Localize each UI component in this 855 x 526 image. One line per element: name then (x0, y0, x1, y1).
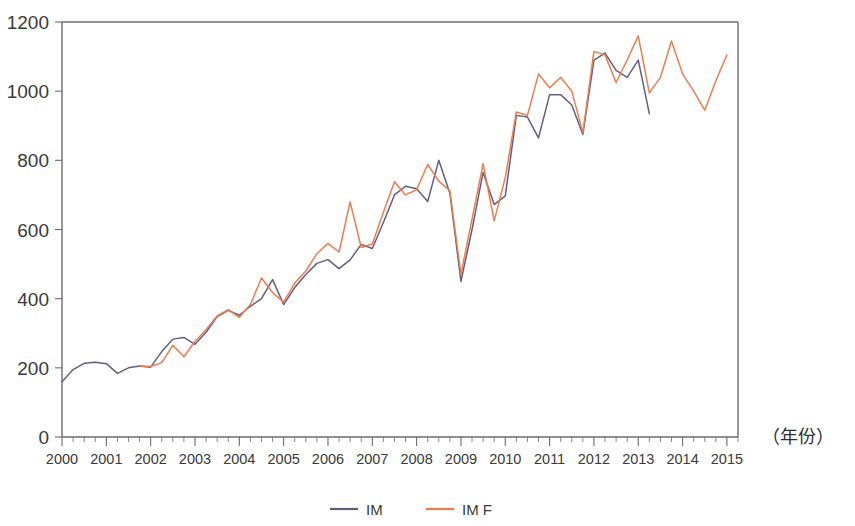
x-tick-label: 2009 (445, 451, 477, 467)
chart-legend: IMIM F (330, 501, 492, 518)
y-axis-ticks (55, 22, 62, 437)
y-tick-label: 600 (17, 220, 49, 241)
x-tick-label: 2015 (711, 451, 743, 467)
x-tick-label: 2011 (534, 451, 565, 467)
y-tick-label: 0 (38, 427, 49, 448)
x-tick-label: 2001 (90, 451, 122, 467)
x-axis-ticks (62, 437, 738, 446)
x-tick-label: 2007 (356, 451, 388, 467)
y-tick-label: 400 (17, 289, 49, 310)
x-tick-label: 2014 (666, 451, 698, 467)
x-tick-label: 2002 (135, 451, 167, 467)
x-tick-label: 2012 (578, 451, 610, 467)
y-tick-label: 800 (17, 150, 49, 171)
x-axis-title: （年份） (762, 427, 834, 447)
x-tick-label: 2008 (400, 451, 432, 467)
y-tick-label: 200 (17, 358, 49, 379)
legend-label: IM F (462, 501, 492, 518)
x-tick-label: 2004 (223, 451, 255, 467)
line-chart: 020040060080010001200 200020012002200320… (0, 0, 855, 526)
x-axis-labels: 2000200120022003200420052006200720082009… (46, 451, 743, 467)
y-axis-labels: 020040060080010001200 (7, 12, 49, 448)
x-tick-label: 2013 (622, 451, 654, 467)
series-line-im-f (140, 36, 727, 367)
x-tick-label: 2003 (179, 451, 211, 467)
x-tick-label: 2010 (489, 451, 521, 467)
x-tick-label: 2000 (46, 451, 78, 467)
y-tick-label: 1200 (7, 12, 49, 33)
series-line-im (62, 53, 649, 382)
x-tick-label: 2006 (312, 451, 344, 467)
x-tick-label: 2005 (268, 451, 300, 467)
legend-label: IM (366, 501, 383, 518)
y-tick-label: 1000 (7, 81, 49, 102)
data-series-group (62, 36, 727, 382)
chart-container: 020040060080010001200 200020012002200320… (0, 0, 855, 526)
